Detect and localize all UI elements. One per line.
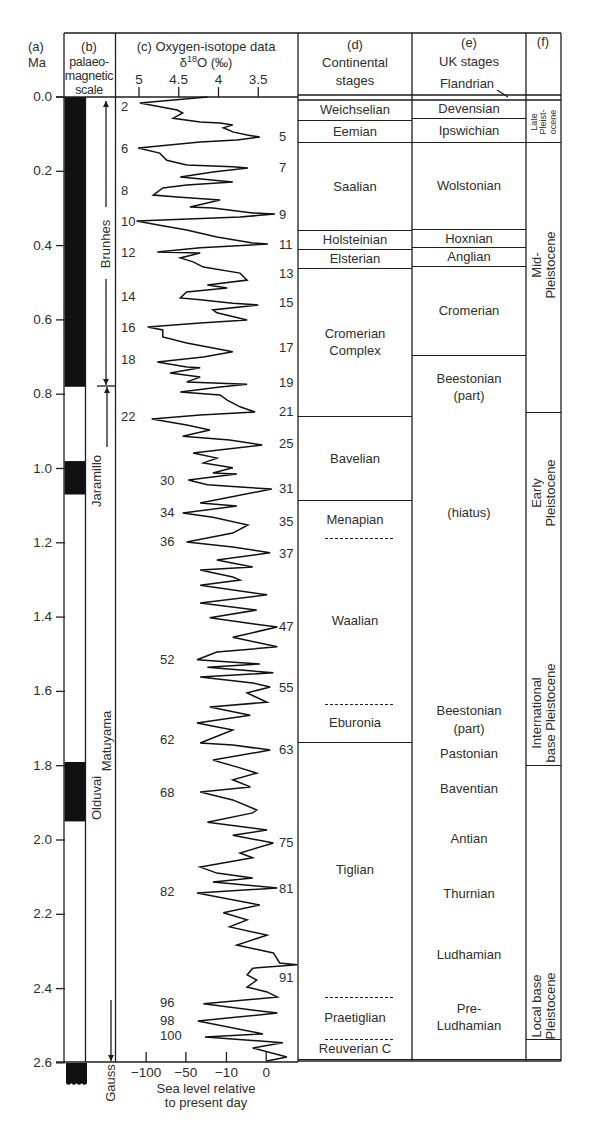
warm-stage-number: 63 <box>279 742 293 755</box>
epoch-label: International base Pleistocene <box>530 663 557 762</box>
epoch-box: Early PleistoceneInternational base Plei… <box>526 413 561 766</box>
cold-stage-number: 12 <box>121 245 135 258</box>
normal-polarity-bar <box>65 97 86 387</box>
warm-stage-number: 25 <box>279 436 293 449</box>
epoch-label: Late Pleist- ocene <box>529 109 557 134</box>
epoch-box: Late Pleist- ocene <box>526 100 561 143</box>
continental-stage-label: Bavelian <box>298 417 412 500</box>
normal-polarity-bar <box>65 461 86 494</box>
isotope-mass-number: 18 <box>187 54 197 64</box>
uk-stage-label: Cromerian <box>412 267 526 355</box>
uk-stage-box: Cromerian <box>412 267 526 356</box>
continental-stage-label: Saalian <box>298 143 412 230</box>
cold-stage-number: 10 <box>121 215 135 228</box>
olduvai-subchron-label: Olduvai <box>90 776 104 820</box>
uk-stage-box: Hoxnian <box>412 230 526 248</box>
uk-stage-label: Ludhamian <box>437 946 501 964</box>
epoch-label: Early Pleistocene <box>530 459 557 526</box>
cold-stage-number: 98 <box>160 1014 174 1027</box>
age-tick-label: 2.4 <box>33 982 52 996</box>
column-f-label: (f) <box>537 35 549 48</box>
uk-stage-box: Ipswichian <box>412 119 526 143</box>
age-tick-label: 0.0 <box>33 90 52 104</box>
column-a-label: (a) <box>28 40 44 53</box>
age-tick-label: 2.2 <box>33 908 52 922</box>
warm-stage-number: 55 <box>279 680 293 693</box>
column-b-label: (b) <box>81 40 97 53</box>
age-tick-label: 1.4 <box>33 610 52 624</box>
quaternary-stratigraphy-figure: (a) Ma (b) palaeo- magnetic scale (c) Ox… <box>0 0 596 1124</box>
age-tick-label: 2.6 <box>33 1056 52 1070</box>
warm-stage-number: 15 <box>279 296 293 309</box>
warm-stage-number: 21 <box>279 404 293 417</box>
warm-stage-number: 91 <box>279 971 293 984</box>
cold-stage-number: 30 <box>160 474 174 487</box>
isotope-axis-unit: O (‰) <box>197 55 232 70</box>
warm-stage-number: 7 <box>279 160 286 173</box>
column-e-title: UK stages <box>439 55 499 68</box>
epoch-box: Local base Pleistocene <box>526 766 561 1040</box>
gauss-chron-label: Gauss <box>104 1064 118 1102</box>
epoch-box <box>526 1040 561 1060</box>
sea-level-tick-label: −50 <box>174 1066 197 1080</box>
continental-stage-box: Waalian <box>298 538 412 704</box>
age-axis-unit: Ma <box>28 56 46 69</box>
cold-stage-number: 82 <box>160 884 174 897</box>
cold-stage-number: 34 <box>160 505 174 518</box>
uk-stage-label: Pre-Ludhamian <box>437 1000 501 1035</box>
continental-stage-label: Menapian <box>298 501 412 538</box>
age-tick-label: 0.4 <box>33 239 52 253</box>
column-d-title-line2: stages <box>336 74 374 87</box>
oxygen-isotope-curve <box>137 97 298 1061</box>
sea-level-axis-title-line1: Sea level relative <box>157 1082 256 1095</box>
continental-stage-box: Menapian <box>298 501 412 538</box>
cold-stage-number: 18 <box>121 352 135 365</box>
column-b-title-line2: magnetic <box>65 70 113 83</box>
warm-stage-number: 35 <box>279 514 293 527</box>
uk-stage-label: Beestonian (part) <box>436 370 501 405</box>
continental-stage-box: Elsterian <box>298 250 412 269</box>
column-d-title-line1: Continental <box>322 56 388 69</box>
isotope-tick-label: 4.5 <box>169 73 188 87</box>
jaramillo-subchron-label: Jaramillo <box>90 455 104 507</box>
continental-stage-label: Praetiglian <box>298 997 412 1039</box>
warm-stage-number: 19 <box>279 375 293 388</box>
column-b-title-line1: palaeo- <box>69 56 109 69</box>
isotope-tick-label: 4 <box>215 73 223 87</box>
isotope-tick-label: 3.5 <box>249 73 268 87</box>
uk-stage-label: Beestonian (part) <box>436 702 501 737</box>
cold-stage-number: 2 <box>121 99 128 112</box>
sea-level-tick-label: −100 <box>131 1066 161 1080</box>
uk-stage-label: Antian <box>451 830 488 848</box>
epoch-label: Local base Pleistocene <box>530 972 557 1039</box>
continental-stage-label: Elsterian <box>298 250 412 268</box>
continental-stage-label: Waalian <box>298 538 412 704</box>
age-tick-label: 2.0 <box>33 833 52 847</box>
sea-level-axis-title-line2: to present day <box>165 1096 247 1109</box>
uk-stage-box: Anglian <box>412 248 526 267</box>
uk-stage-label: Devensian <box>412 100 526 118</box>
warm-stage-number: 9 <box>279 208 286 221</box>
age-tick-label: 0.8 <box>33 387 52 401</box>
warm-stage-number: 81 <box>279 881 293 894</box>
continental-stage-box: Bavelian <box>298 417 412 501</box>
continental-stage-label: Eemian <box>298 121 412 142</box>
epoch-box: Mid- Pleistocene <box>526 143 561 413</box>
cold-stage-number: 6 <box>121 141 128 154</box>
warm-stage-number: 5 <box>279 130 286 143</box>
warm-stage-number: 11 <box>279 238 293 251</box>
palaeomagnetic-polarity-bars <box>65 97 88 1085</box>
uk-stage-box: Beestonian (part)(hiatus)Beestonian (par… <box>412 356 526 1060</box>
flandrian-stage-label: Flandrian <box>440 77 494 90</box>
warm-stage-number: 47 <box>279 620 293 633</box>
cold-stage-number: 36 <box>160 534 174 547</box>
uk-stage-label: (hiatus) <box>447 504 490 522</box>
continental-stage-label: Reuverian C <box>298 1039 412 1059</box>
cold-stage-number: 96 <box>160 995 174 1008</box>
uk-stage-label: Anglian <box>412 248 526 266</box>
isotope-tick-label: 5 <box>135 73 143 87</box>
uk-stage-label: Pastonian <box>440 745 498 763</box>
cold-stage-number: 22 <box>121 410 135 423</box>
warm-stage-number: 17 <box>279 341 293 354</box>
warm-stage-number: 75 <box>279 835 293 848</box>
